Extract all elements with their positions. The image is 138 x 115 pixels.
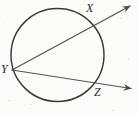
- scan-speck: [64, 40, 65, 41]
- circle-outline: [11, 9, 104, 102]
- point-label-y: Y: [1, 63, 8, 75]
- figure-canvas: [0, 0, 138, 115]
- scan-speck: [8, 100, 11, 101]
- scan-speck: [3, 22, 4, 23]
- scan-speck: [120, 18, 122, 19]
- point-label-x: X: [86, 2, 93, 14]
- scan-speck: [128, 58, 129, 60]
- ray-yz: [12, 70, 131, 89]
- scan-speck: [112, 110, 114, 111]
- point-label-z: Z: [94, 86, 101, 98]
- scan-speck: [30, 104, 32, 105]
- ray-yx: [12, 6, 130, 70]
- geometry-figure: X Y Z: [0, 0, 138, 115]
